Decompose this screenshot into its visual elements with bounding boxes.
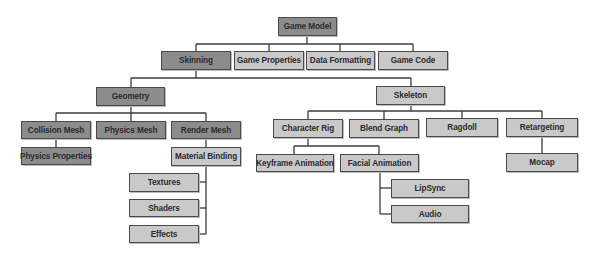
- node-label: Data Formatting: [310, 56, 371, 65]
- node-lipsync: LipSync: [391, 179, 469, 198]
- node-label: LipSync: [414, 184, 445, 193]
- node-audio: Audio: [391, 205, 469, 223]
- node-label: Mocap: [529, 158, 554, 167]
- node-label: Physics Properties: [20, 152, 92, 161]
- node-ragdoll: Ragdoll: [426, 118, 498, 137]
- node-label: Game Model: [284, 22, 332, 31]
- node-geometry: Geometry: [96, 87, 165, 106]
- node-textures: Textures: [129, 173, 199, 192]
- node-retargeting: Retargeting: [506, 118, 578, 137]
- node-label: Physics Mesh: [105, 126, 158, 135]
- node-game-properties: Game Properties: [234, 51, 304, 70]
- node-label: Ragdoll: [447, 123, 476, 132]
- node-label: Audio: [419, 210, 442, 219]
- node-game-model: Game Model: [278, 17, 337, 36]
- node-label: Collision Mesh: [28, 126, 84, 135]
- node-render-mesh: Render Mesh: [171, 121, 241, 139]
- node-label: Keyframe Animation: [256, 159, 334, 168]
- node-label: Game Properties: [237, 56, 301, 65]
- node-label: Textures: [148, 178, 181, 187]
- node-data-formatting: Data Formatting: [306, 51, 375, 70]
- node-blend-graph: Blend Graph: [349, 119, 419, 138]
- node-label: Material Binding: [175, 152, 237, 161]
- node-physics-properties: Physics Properties: [21, 147, 91, 165]
- node-label: Geometry: [112, 92, 149, 101]
- node-label: Skeleton: [394, 91, 427, 100]
- node-collision-mesh: Collision Mesh: [21, 121, 91, 139]
- node-label: Shaders: [148, 204, 180, 213]
- node-mocap: Mocap: [506, 153, 578, 172]
- node-label: Game Code: [391, 56, 436, 65]
- node-shaders: Shaders: [129, 199, 199, 217]
- node-label: Blend Graph: [360, 124, 408, 133]
- node-label: Render Mesh: [181, 126, 231, 135]
- node-facial-animation: Facial Animation: [340, 154, 419, 172]
- node-character-rig: Character Rig: [273, 119, 343, 138]
- node-effects: Effects: [129, 225, 199, 243]
- node-label: Effects: [151, 230, 178, 239]
- node-skinning: Skinning: [161, 51, 231, 70]
- node-physics-mesh: Physics Mesh: [96, 121, 166, 139]
- tree-diagram: Game Model Skinning Game Properties Data…: [0, 0, 596, 256]
- node-label: Retargeting: [520, 123, 564, 132]
- node-label: Facial Animation: [348, 159, 412, 168]
- node-label: Skinning: [179, 56, 213, 65]
- node-game-code: Game Code: [378, 51, 448, 70]
- node-label: Character Rig: [282, 124, 334, 133]
- node-keyframe-animation: Keyframe Animation: [256, 154, 334, 172]
- node-material-binding: Material Binding: [171, 147, 241, 166]
- node-skeleton: Skeleton: [376, 86, 445, 105]
